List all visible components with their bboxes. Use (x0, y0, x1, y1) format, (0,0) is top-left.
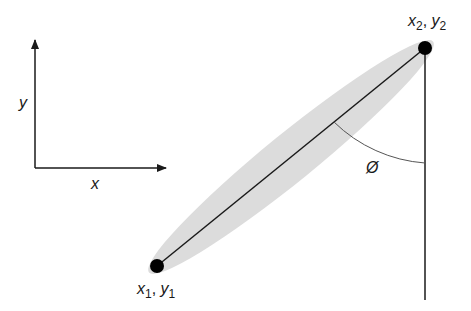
x-axis-label: x (90, 175, 100, 192)
endpoint-1-label: x1, y1 (136, 280, 176, 301)
reference-axes: y x (18, 40, 166, 192)
angle-label: Ø (365, 159, 380, 176)
endpoint-2-label: x2, y2 (407, 12, 447, 33)
endpoint-2 (418, 41, 432, 55)
y-axis-label: y (18, 94, 28, 111)
orientation-diagram: y x Ø x1, y1 x2, y2 (0, 0, 471, 311)
endpoint-1 (150, 259, 164, 273)
segment-line (157, 48, 425, 266)
